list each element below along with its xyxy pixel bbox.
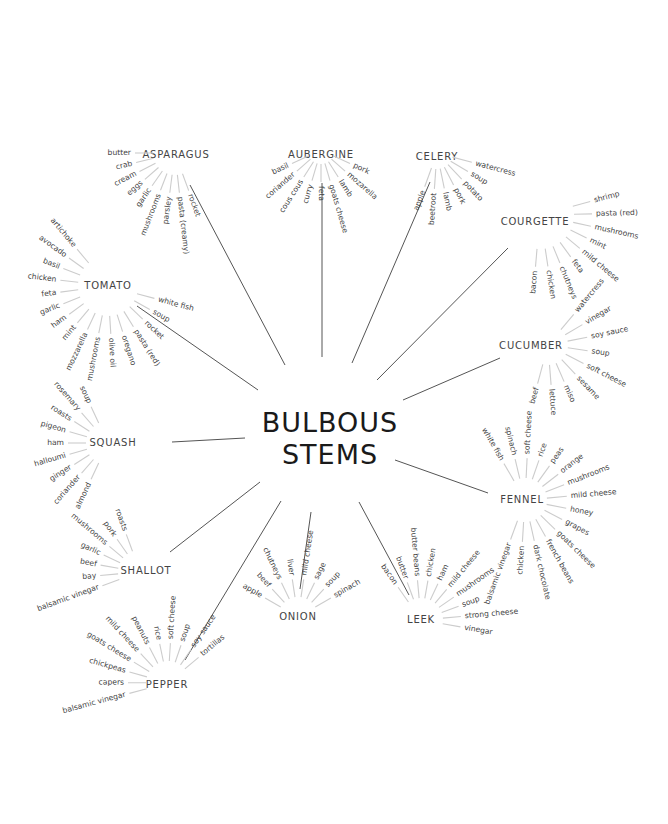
pairing-label: chicken bbox=[515, 545, 526, 575]
vegetable-label-tomato: TOMATO bbox=[83, 280, 131, 291]
title-line-1: BULBOUS bbox=[262, 407, 399, 438]
vegetable-label-celery: CELERY bbox=[416, 151, 458, 162]
pairing-label: feta bbox=[41, 288, 57, 299]
pairing-label: feta bbox=[317, 186, 326, 201]
vegetable-label-aubergine: AUBERGINE bbox=[288, 149, 354, 160]
pairing-label: pasta (red) bbox=[596, 208, 638, 218]
vegetable-label-shallot: SHALLOT bbox=[120, 565, 171, 576]
pairing-label: capers bbox=[99, 677, 125, 686]
vegetable-label-leek: LEEK bbox=[407, 614, 435, 625]
center-title: BULBOUS STEMS bbox=[262, 407, 399, 470]
title-line-2: STEMS bbox=[282, 439, 378, 470]
vegetable-label-fennel: FENNEL bbox=[500, 494, 544, 505]
pairing-label: bay bbox=[82, 571, 97, 581]
pairing-label: olive oil bbox=[107, 338, 118, 368]
vegetable-label-squash: SQUASH bbox=[89, 437, 136, 448]
bulbous-stems-pairing-diagram: ASPARAGUSbuttercrabcreameggsgarlicmushro… bbox=[0, 0, 668, 824]
vegetable-label-pepper: PEPPER bbox=[146, 679, 188, 690]
pairing-label: ham bbox=[47, 438, 64, 447]
vegetable-label-courgette: COURGETTE bbox=[501, 216, 570, 227]
vegetable-label-cucumber: CUCUMBER bbox=[499, 340, 563, 351]
pairing-label: butter bbox=[108, 148, 132, 157]
vegetable-label-onion: ONION bbox=[279, 611, 317, 622]
